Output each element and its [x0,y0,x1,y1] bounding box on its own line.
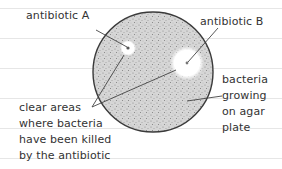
label-bacteria-line-1: bacteria [222,72,268,87]
label-antibiotic-a: antibiotic A [26,8,90,23]
label-clear-areas-line-2: where bacteria [19,116,103,131]
label-antibiotic-b: antibiotic B [200,14,264,29]
label-clear-areas-line-3: have been killed [19,132,111,147]
label-bacteria-line-2: growing [222,88,267,103]
agar-plate-diagram: antibiotic A antibiotic B bacteria growi… [0,0,282,169]
label-bacteria-line-4: plate [222,120,250,135]
label-clear-areas-line-4: by the antibiotic [19,148,111,163]
label-bacteria-line-3: on agar [222,104,265,119]
label-clear-areas-line-1: clear areas [19,100,81,115]
antibiotic-b-disc [186,62,189,65]
